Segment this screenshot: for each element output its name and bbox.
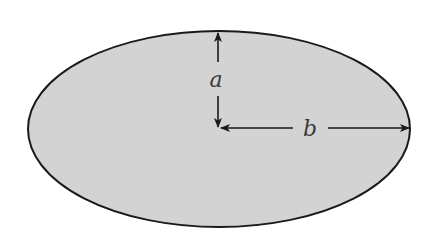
semi-minor-label: a xyxy=(209,67,222,92)
semi-major-label: b xyxy=(303,116,317,141)
ellipse-diagram: a b xyxy=(0,0,431,252)
ellipse-shape xyxy=(28,31,410,227)
